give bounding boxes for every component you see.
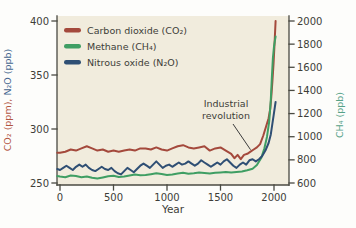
legend-swatch-icon	[64, 44, 81, 49]
right-axis-tick-label: 1800	[297, 39, 322, 50]
right-axis-tick-label: 1000	[297, 131, 322, 142]
x-axis-tick-label: 500	[104, 192, 123, 203]
legend-swatch-icon	[64, 28, 81, 33]
x-axis-tick-label: 2000	[261, 192, 286, 203]
annotation-text-line: Industrial	[204, 98, 249, 109]
x-axis-tick-label: 0	[57, 192, 63, 203]
right-axis-tick-label: 800	[297, 154, 316, 165]
legend-swatch-icon	[64, 60, 81, 65]
annotation-text-line: revolution	[202, 110, 250, 121]
right-axis-title: CH₄ (ppb)	[334, 92, 345, 138]
right-axis-tick-label: 1400	[297, 85, 322, 96]
x-axis-tick-label: 1000	[154, 192, 179, 203]
chart-canvas: 2503003504006008001000120014001600180020…	[0, 0, 356, 228]
right-axis-tick-label: 600	[297, 178, 316, 189]
left-axis-tick-label: 350	[30, 70, 49, 81]
x-axis-title: Year	[161, 203, 185, 215]
legend-label: Nitrous oxide (N₂O)	[87, 57, 178, 68]
x-axis-tick-label: 1500	[208, 192, 233, 203]
left-axis-tick-label: 300	[30, 124, 49, 135]
right-axis-tick-label: 1200	[297, 108, 322, 119]
left-axis-tick-label: 250	[30, 178, 49, 189]
left-axis-tick-label: 400	[30, 16, 49, 27]
greenhouse-gas-concentration-figure: 2503003504006008001000120014001600180020…	[0, 0, 356, 228]
left-axis-title: CO₂ (ppm), N₂O (ppb)	[2, 49, 13, 152]
legend-label: Methane (CH₄)	[87, 41, 157, 52]
legend-label: Carbon dioxide (CO₂)	[87, 25, 187, 36]
right-axis-tick-label: 2000	[297, 16, 322, 27]
right-axis-tick-label: 1600	[297, 62, 322, 73]
